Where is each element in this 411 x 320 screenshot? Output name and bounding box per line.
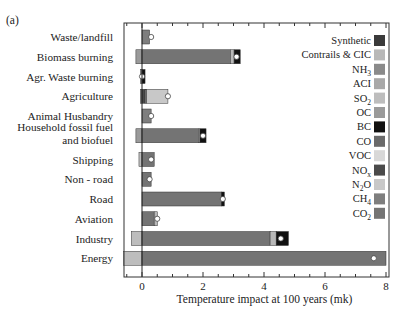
x-tick-labels: 02468 xyxy=(139,280,389,292)
bar-segment xyxy=(142,129,198,143)
legend-item: BC xyxy=(357,121,385,132)
net-marker xyxy=(220,196,225,201)
category-label: Agr. Waste burning xyxy=(26,71,113,83)
x-tick-label: 0 xyxy=(139,280,145,292)
legend-swatch xyxy=(374,93,385,104)
legend-label: SO2 xyxy=(354,93,371,107)
category-label: and biofuel xyxy=(62,134,113,146)
legend-item: CH4 xyxy=(353,193,385,207)
bar-segment xyxy=(147,89,168,103)
net-marker xyxy=(147,177,152,182)
legend-item: ACI xyxy=(353,78,385,89)
legend-item: Contrails & CIC xyxy=(302,49,385,60)
legend-swatch xyxy=(374,150,385,161)
bar-segment xyxy=(131,232,142,246)
net-marker xyxy=(234,54,239,59)
legend-swatch xyxy=(374,78,385,89)
net-markers xyxy=(139,34,376,260)
legend-item: OC xyxy=(356,107,385,118)
net-marker xyxy=(165,94,170,99)
net-marker xyxy=(149,113,154,118)
x-tick-label: 4 xyxy=(261,280,267,292)
legend-label: Synthetic xyxy=(331,35,371,46)
bar-segment xyxy=(142,192,221,206)
legend-swatch xyxy=(374,179,385,190)
x-axis-label: Temperature impact at 100 years (mk) xyxy=(177,293,353,306)
bar-segment xyxy=(270,232,276,246)
legend-item: SO2 xyxy=(354,93,385,107)
category-label: Animal Husbandry xyxy=(28,110,114,122)
category-label: Agriculture xyxy=(61,90,113,102)
legend-item: Synthetic xyxy=(331,35,385,46)
bar-group xyxy=(140,89,167,103)
legend-item: NOx xyxy=(352,165,385,179)
bar-segment xyxy=(136,129,142,143)
bar-group xyxy=(136,50,240,64)
category-labels: Waste/landfillBiomass burningAgr. Waste … xyxy=(17,31,113,264)
legend-swatch xyxy=(374,165,385,176)
category-label: Aviation xyxy=(75,213,114,225)
legend-swatch xyxy=(374,107,385,118)
net-marker xyxy=(278,236,283,241)
legend-item: VOC xyxy=(349,150,385,161)
bar-segment xyxy=(142,50,230,64)
bar-segment xyxy=(142,232,270,246)
bar-segment xyxy=(142,251,386,265)
legend-label: CO xyxy=(356,136,371,147)
legend-label: Contrails & CIC xyxy=(302,49,371,60)
bar-group xyxy=(142,192,224,206)
legend-label: BC xyxy=(357,121,371,132)
legend-swatch xyxy=(374,136,385,147)
panel-label: (a) xyxy=(6,14,19,27)
category-label: Industry xyxy=(76,233,114,245)
x-tick-label: 6 xyxy=(322,280,328,292)
x-tick-label: 2 xyxy=(200,280,206,292)
bar-segment xyxy=(124,251,142,265)
legend-label: NH3 xyxy=(352,64,371,78)
category-label: Road xyxy=(89,193,113,205)
legend-item: N2O xyxy=(352,179,385,193)
category-label: Household fossil fuel xyxy=(17,121,113,133)
category-label: Shipping xyxy=(73,154,114,166)
bars xyxy=(124,30,386,265)
legend-swatch xyxy=(374,193,385,204)
legend-item: NH3 xyxy=(352,64,385,78)
bar-group xyxy=(136,129,206,143)
legend-swatch xyxy=(374,49,385,60)
category-label: Waste/landfill xyxy=(51,31,113,43)
category-label: Biomass burning xyxy=(37,51,114,63)
legend-label: N2O xyxy=(352,179,371,193)
temperature-impact-chart: (a) Waste/landfillBiomass burningAgr. Wa… xyxy=(0,0,411,320)
legend-item: CO2 xyxy=(353,208,385,222)
net-marker xyxy=(149,34,154,39)
legend-label: OC xyxy=(356,107,371,118)
legend-label: CH4 xyxy=(353,193,372,207)
legend-label: CO2 xyxy=(353,208,372,222)
net-marker xyxy=(200,133,205,138)
net-marker xyxy=(371,256,376,261)
net-marker xyxy=(149,157,154,162)
legend: SyntheticContrails & CICNH3ACISO2OCBCCOV… xyxy=(302,35,385,222)
legend-swatch xyxy=(374,121,385,132)
net-marker xyxy=(155,216,160,221)
legend-label: ACI xyxy=(353,78,372,89)
category-label: Non - road xyxy=(65,173,114,185)
category-label: Energy xyxy=(81,252,114,264)
bar-segment xyxy=(136,50,142,64)
legend-swatch xyxy=(374,208,385,219)
bar-group xyxy=(131,232,288,246)
x-tick-label: 8 xyxy=(383,280,389,292)
legend-item: CO xyxy=(356,136,385,147)
legend-label: NOx xyxy=(352,165,371,179)
legend-label: VOC xyxy=(349,150,371,161)
bar-segment xyxy=(142,212,154,226)
legend-swatch xyxy=(374,35,385,46)
bar-group xyxy=(124,251,386,265)
legend-swatch xyxy=(374,64,385,75)
